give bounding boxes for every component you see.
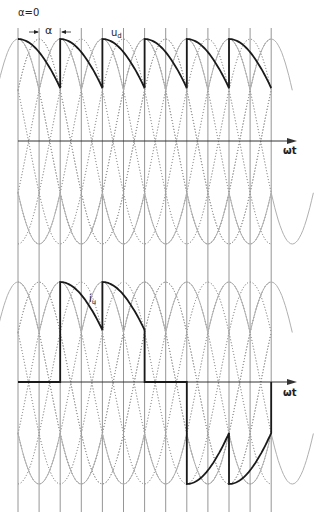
alpha-label: α bbox=[45, 24, 52, 37]
lower-envelope bbox=[271, 193, 313, 244]
ud-label: ud bbox=[111, 27, 122, 40]
alpha-zero-label: α=0 bbox=[18, 7, 39, 18]
ud-waveform bbox=[18, 39, 271, 88]
upper-envelope bbox=[0, 282, 39, 333]
omega-t-label-top: ωt bbox=[283, 145, 297, 156]
axis-arrow-icon bbox=[287, 138, 297, 144]
axis-arrow-icon bbox=[287, 379, 297, 385]
lower-envelope bbox=[271, 434, 313, 485]
envelope-curves bbox=[0, 39, 313, 484]
vertical-grid-lines bbox=[18, 28, 271, 512]
omega-t-label-bottom: ωt bbox=[283, 387, 297, 398]
rectifier-waveform-diagram: α=0 α ud iu ωt ωt bbox=[0, 0, 317, 521]
